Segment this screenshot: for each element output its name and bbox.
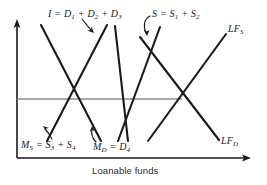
label-S-S1: S <box>170 8 175 19</box>
label-I-eq: = <box>52 8 64 19</box>
arrow-to-investment <box>82 19 92 31</box>
label-saving-curve: S = S1 + S2 <box>152 9 200 19</box>
loanable-demand-curve <box>140 37 219 140</box>
loanable-funds-diagram: I = D1 + D2 + D3 S = S1 + S2 LFS LFD MS … <box>0 0 267 185</box>
label-LFS-sub: S <box>240 28 244 36</box>
label-MS-S3-sub: 3 <box>51 144 55 152</box>
label-money-demand-curve: MD = D4 <box>93 142 130 152</box>
label-S-S2-sub: 2 <box>196 13 200 21</box>
label-MD-M: M <box>93 141 102 152</box>
label-LFD-text: LF <box>221 135 233 146</box>
label-MS-M: M <box>21 139 30 150</box>
label-I-plus2: + <box>99 8 111 19</box>
label-money-supply-curve: MS = S3 + S4 <box>21 140 76 150</box>
label-loanable-funds-demand: LFD <box>221 136 238 146</box>
label-I-plus1: + <box>75 8 87 19</box>
investment-curve <box>41 25 101 141</box>
loanable-supply-curve <box>148 34 226 141</box>
label-MS-plus: + <box>55 139 67 150</box>
label-MS-M-sub: S <box>30 144 34 152</box>
label-I-D2-sub: 2 <box>95 13 99 21</box>
saving-curve <box>115 26 128 141</box>
arrow-to-money-supply-head <box>43 126 49 132</box>
curve-group <box>41 25 226 141</box>
label-S-eq: = <box>157 8 169 19</box>
x-axis-label: Loanable funds <box>92 165 158 176</box>
label-MD-D4-sub: 4 <box>127 146 131 154</box>
label-S-S1-sub: 1 <box>175 13 179 21</box>
label-LFS-text: LF <box>228 23 240 34</box>
money-demand-curve <box>118 27 160 141</box>
label-I-D3-sub: 3 <box>118 13 122 21</box>
label-I-D2: D <box>87 8 94 19</box>
label-investment-curve: I = D1 + D2 + D3 <box>48 9 122 19</box>
label-S-plus: + <box>178 8 190 19</box>
label-MD-M-sub: D <box>102 146 107 154</box>
annotation-arrow-group <box>43 16 150 142</box>
label-MD-eq: = <box>107 141 119 152</box>
label-MS-S4-sub: 4 <box>72 144 76 152</box>
diagram-canvas <box>0 0 267 185</box>
label-loanable-funds-supply: LFS <box>228 24 244 34</box>
label-MS-eq: = <box>33 139 45 150</box>
label-I-D1-sub: 1 <box>71 13 75 21</box>
money-supply-curve <box>47 25 107 141</box>
label-MD-D4: D <box>119 141 126 152</box>
arrow-to-saving-head <box>144 30 150 37</box>
label-LFD-sub: D <box>233 140 238 148</box>
